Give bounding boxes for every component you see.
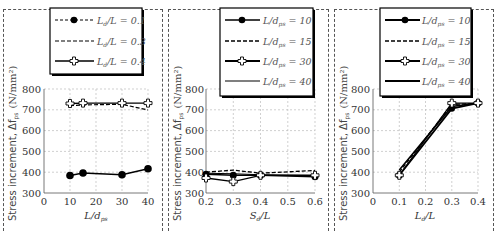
- svg-text:0.2: 0.2: [198, 196, 214, 207]
- x-tick-labels: 0 0.1 0.2 0.3 0.4: [370, 196, 486, 207]
- svg-text:800: 800: [22, 84, 41, 95]
- chart-panel-2: 800 700 600 500 400 300 0.2 0.3 0.4 0.5 …: [172, 8, 323, 222]
- svg-text:800: 800: [185, 84, 204, 95]
- svg-text:700: 700: [185, 104, 204, 115]
- svg-text:300: 300: [351, 188, 370, 199]
- markers-ldps-30: [395, 99, 482, 179]
- y-tick-labels: 800 700 600 500 400 300: [351, 84, 370, 199]
- svg-text:400: 400: [185, 167, 204, 178]
- svg-text:600: 600: [351, 125, 370, 136]
- svg-text:0: 0: [41, 196, 47, 207]
- svg-text:700: 700: [351, 104, 370, 115]
- svg-text:40: 40: [142, 196, 155, 207]
- x-tick-labels: 0.2 0.3 0.4 0.5 0.6: [198, 196, 323, 207]
- x-axis-label: Sd/L: [250, 210, 271, 222]
- svg-text:500: 500: [185, 146, 204, 157]
- series-ldps-15: [399, 104, 478, 173]
- chart-canvas: 800 700 600 500 400 300 0 10 20 30 40 L/…: [0, 0, 497, 231]
- svg-text:0.4: 0.4: [253, 196, 269, 207]
- svg-text:10: 10: [64, 196, 77, 207]
- svg-text:400: 400: [22, 167, 41, 178]
- legend-panel-1: Ld/L = 0.1 Ld/L = 0.3 Ld/L = 0.4: [50, 8, 146, 76]
- svg-text:600: 600: [185, 125, 204, 136]
- svg-text:0: 0: [370, 196, 376, 207]
- markers-ldps-10: [396, 100, 482, 179]
- svg-text:0.1: 0.1: [391, 196, 407, 207]
- svg-text:300: 300: [22, 188, 41, 199]
- y-axis-label: Stress increment, Δfps(N/mm²): [338, 66, 351, 221]
- y-tick-labels: 800 700 600 500 400 300: [22, 84, 41, 199]
- svg-text:0.2: 0.2: [418, 196, 434, 207]
- chart-panel-1: 800 700 600 500 400 300 0 10 20 30 40 L/…: [7, 8, 154, 223]
- svg-text:700: 700: [22, 104, 41, 115]
- series-ldps-10: [399, 103, 478, 175]
- chart-panel-3: 800 700 600 500 400 300 0 0.1 0.2 0.3 0.…: [338, 8, 486, 222]
- svg-text:0.5: 0.5: [280, 196, 296, 207]
- y-axis-label: Stress increment, Δfps(N/mm²): [7, 66, 20, 221]
- svg-text:500: 500: [351, 146, 370, 157]
- svg-text:400: 400: [351, 167, 370, 178]
- x-axis-label: L/dps: [83, 210, 107, 223]
- x-tick-labels: 0 10 20 30 40: [41, 196, 155, 207]
- svg-text:0.4: 0.4: [470, 196, 486, 207]
- svg-text:0.3: 0.3: [444, 196, 460, 207]
- svg-text:20: 20: [90, 196, 103, 207]
- svg-text:0.3: 0.3: [225, 196, 241, 207]
- legend-panel-3: L/dps = 10 L/dps = 15 L/dps = 30 L/dps =…: [380, 8, 473, 98]
- legend-panel-2: L/dps = 10 L/dps = 15 L/dps = 30 L/dps =…: [220, 8, 315, 98]
- y-tick-labels: 800 700 600 500 400 300: [185, 84, 204, 199]
- svg-text:0.6: 0.6: [307, 196, 323, 207]
- y-axis-label: Stress increment, Δfps(N/mm²): [172, 66, 185, 221]
- series-ldps-30: [399, 103, 478, 175]
- svg-text:600: 600: [22, 125, 41, 136]
- svg-text:500: 500: [22, 146, 41, 157]
- x-axis-label: Ld/L: [414, 210, 436, 222]
- svg-text:800: 800: [351, 84, 370, 95]
- svg-text:30: 30: [116, 196, 129, 207]
